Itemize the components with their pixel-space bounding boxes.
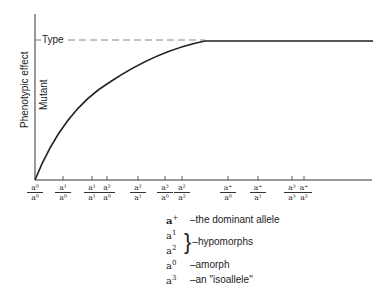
- tick-label: a⁺a¹: [250, 183, 266, 202]
- tick-label: a²a⁰: [99, 183, 115, 202]
- legend-isoallele: a3 –an "isoallele": [166, 272, 280, 287]
- tick-label: a³a⁰: [157, 183, 173, 202]
- legend-hypomorphs: a1 a2 } –hypomorphs: [166, 227, 280, 257]
- tick-label: a⁺a⁰: [220, 183, 236, 202]
- mutant-label: Mutant: [38, 79, 49, 110]
- phenotype-curve: [35, 41, 373, 180]
- brace-icon: }: [184, 231, 191, 253]
- legend-dominant: a+ –the dominant allele: [166, 212, 280, 227]
- type-label: Type: [41, 34, 65, 45]
- x-ticks: [63, 176, 304, 180]
- tick-label: a²a²: [174, 183, 190, 202]
- y-axis-label: Phenotypic effect: [19, 51, 30, 128]
- allele-legend: a+ –the dominant allele a1 a2 } –hypomor…: [166, 212, 280, 287]
- tick-label: a¹a⁰: [55, 183, 71, 202]
- tick-label: a⁺a²: [296, 183, 312, 202]
- legend-amorph: a0 –amorph: [166, 257, 280, 272]
- tick-label: a²a¹: [130, 183, 146, 202]
- tick-label: a¹a¹: [84, 183, 100, 202]
- tick-label: a⁰a⁰: [27, 183, 43, 202]
